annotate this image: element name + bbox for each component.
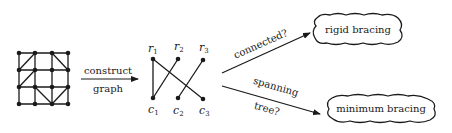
node-c2 — [176, 96, 181, 101]
bracing-diagram: construct graph r1 r2 r3 c1 c2 c3 connec… — [0, 0, 452, 133]
rigid-bracing-label: rigid bracing — [325, 24, 392, 35]
node-r3 — [201, 58, 206, 63]
node-r2 — [176, 57, 181, 62]
node-r1 — [151, 57, 156, 62]
node-c3 — [201, 97, 206, 102]
grid-framework — [17, 51, 71, 107]
label-r2: r2 — [174, 40, 184, 54]
graph-label: graph — [93, 83, 124, 94]
construct-graph-arrow: construct graph — [81, 65, 138, 94]
spanning-label: spanning — [252, 75, 300, 99]
label-c2: c2 — [173, 104, 184, 118]
spanning-tree-arrow: spanning tree? — [222, 75, 320, 118]
rigid-bracing-cloud: rigid bracing — [313, 14, 402, 45]
label-c3: c3 — [199, 104, 210, 118]
construct-label: construct — [84, 65, 132, 76]
node-c1 — [151, 96, 156, 101]
label-r1: r1 — [148, 42, 158, 56]
connected-arrow: connected? — [222, 27, 310, 73]
label-c1: c1 — [148, 103, 159, 117]
minimum-bracing-label: minimum bracing — [336, 103, 426, 114]
grid-diagonal-braces — [19, 53, 68, 104]
graph-edges — [153, 59, 203, 99]
grid-joints — [17, 51, 71, 107]
minimum-bracing-cloud: minimum bracing — [328, 95, 436, 123]
bipartite-graph: r1 r2 r3 c1 c2 c3 — [148, 40, 210, 118]
tree-label: tree? — [253, 100, 281, 118]
label-r3: r3 — [199, 41, 209, 55]
